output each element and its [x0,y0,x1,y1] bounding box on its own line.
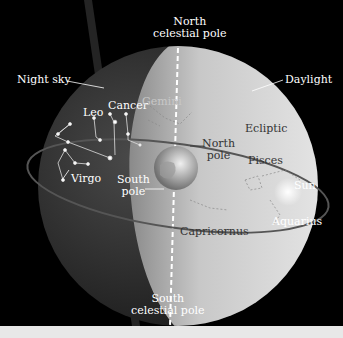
constellation-aquarius-label: Aquarius [272,216,322,228]
bottom-margin [0,326,343,338]
night-sky-label: Night sky [17,74,71,86]
constellation-gemini-label: Gemini [142,96,182,108]
sun-label: Sun [294,180,316,192]
north-celestial-pole-label: North celestial pole [153,16,227,40]
south-celestial-pole-label: South celestial pole [131,293,205,317]
diagram-canvas: North celestial pole Night sky Cancer Le… [0,0,343,338]
north-pole-label: North pole [202,138,235,162]
daylight-label: Daylight [285,74,332,86]
constellation-leo-label: Leo [83,107,103,119]
constellation-virgo-label: Virgo [71,173,101,185]
constellation-capricornus-label: Capricornus [180,226,249,238]
constellation-pisces-label: Pisces [248,155,283,167]
celestial-sphere-graphic [0,0,343,338]
south-pole-label: South pole [117,174,150,198]
ecliptic-label: Ecliptic [245,123,287,135]
